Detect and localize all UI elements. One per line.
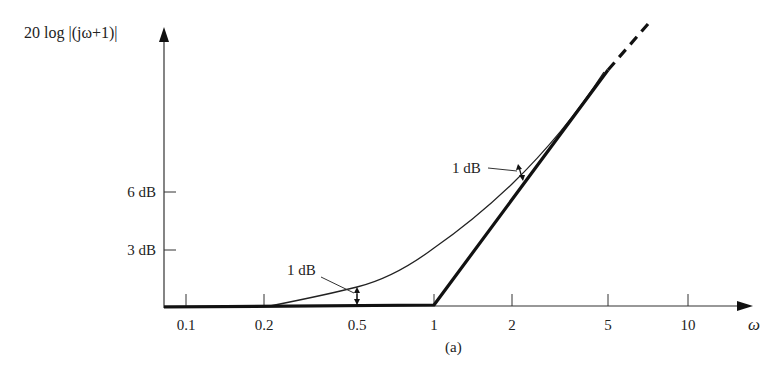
arrow-up-icon xyxy=(516,164,522,170)
y-axis-arrow-icon xyxy=(159,27,169,42)
exact-magnitude-curve xyxy=(270,72,604,306)
annotation-label-2: 1 dB xyxy=(452,161,481,176)
x-tick-label-0.5: 0.5 xyxy=(337,318,377,333)
arrow-down-icon xyxy=(519,175,525,181)
x-tick-label-10: 10 xyxy=(668,318,708,333)
x-axis-title: ω xyxy=(748,316,760,333)
annotation-leader-2 xyxy=(488,168,517,171)
y-tick-label-6db: 6 dB xyxy=(96,185,156,200)
y-axis-title: 20 log |(jω+1)| xyxy=(24,25,118,41)
x-axis-arrow-icon xyxy=(737,301,753,311)
x-tick-label-1: 1 xyxy=(414,318,454,333)
x-tick-label-5: 5 xyxy=(588,318,628,333)
x-tick-label-2: 2 xyxy=(492,318,532,333)
annotation-leader-1 xyxy=(321,277,354,293)
asymptote-line xyxy=(164,70,608,307)
x-tick-label-0.1: 0.1 xyxy=(166,318,206,333)
figure-caption: (a) xyxy=(445,340,462,355)
x-tick-label-0.2: 0.2 xyxy=(244,318,284,333)
annotation-label-1: 1 dB xyxy=(287,263,316,278)
y-tick-label-3db: 3 dB xyxy=(96,243,156,258)
asymptote-dashed-extension xyxy=(608,24,648,70)
